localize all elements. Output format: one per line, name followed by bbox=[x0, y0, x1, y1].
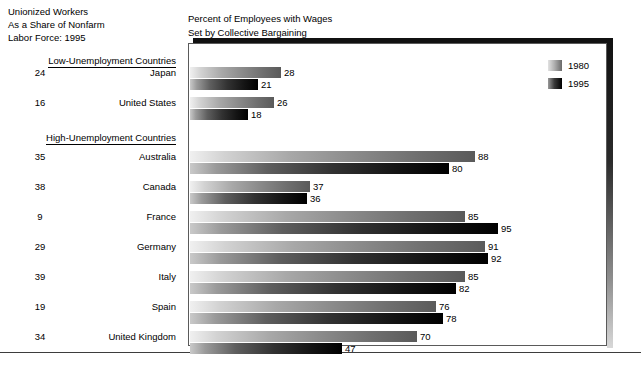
bar-value-label: 85 bbox=[468, 270, 479, 283]
bar-1995 bbox=[190, 163, 449, 174]
row-label: 34United Kingdom bbox=[0, 330, 182, 344]
bar-value-label: 82 bbox=[459, 282, 470, 295]
row-label: 35Australia bbox=[0, 150, 182, 164]
country-name: Spain bbox=[152, 300, 176, 314]
bar-1980 bbox=[190, 151, 475, 162]
legend-item-label: 1995 bbox=[568, 78, 589, 89]
group-heading-label: High-Unemployment Countries bbox=[46, 132, 176, 145]
union-share-value: 29 bbox=[22, 240, 58, 254]
union-share-value: 38 bbox=[22, 180, 58, 194]
row-label: 39Italy bbox=[0, 270, 182, 284]
row-label: 38Canada bbox=[0, 180, 182, 194]
country-name: Australia bbox=[139, 150, 176, 164]
bar-1995 bbox=[190, 253, 488, 264]
bar-1980 bbox=[190, 67, 281, 78]
bar-value-label: 28 bbox=[284, 66, 295, 79]
bar-value-label: 85 bbox=[468, 210, 479, 223]
bar-1980 bbox=[190, 301, 436, 312]
country-name: Canada bbox=[143, 180, 176, 194]
country-name: Italy bbox=[159, 270, 176, 284]
country-name: United Kingdom bbox=[108, 330, 176, 344]
bar-value-label: 95 bbox=[501, 222, 512, 235]
union-share-value: 39 bbox=[22, 270, 58, 284]
bar-1980 bbox=[190, 97, 274, 108]
bar-value-label: 78 bbox=[446, 312, 457, 325]
row-label: 9France bbox=[0, 210, 182, 224]
chart-frame-shadow-right bbox=[607, 38, 613, 348]
bar-value-label: 21 bbox=[261, 78, 272, 91]
bar-value-label: 36 bbox=[310, 192, 321, 205]
row-label: 19Spain bbox=[0, 300, 182, 314]
bar-1995 bbox=[190, 283, 456, 294]
bar-1995 bbox=[190, 343, 342, 354]
bar-value-label: 92 bbox=[491, 252, 502, 265]
bar-1995 bbox=[190, 223, 498, 234]
left-title: Unionized Workers As a Share of Nonfarm … bbox=[8, 5, 105, 44]
bar-value-label: 47 bbox=[345, 342, 356, 355]
row-label: 29Germany bbox=[0, 240, 182, 254]
country-name: Germany bbox=[137, 240, 176, 254]
union-share-value: 9 bbox=[22, 210, 58, 224]
bar-1980 bbox=[190, 271, 465, 282]
row-label: 24Japan bbox=[0, 66, 182, 80]
gray-gradient-dark-swatch bbox=[548, 78, 562, 89]
union-share-value: 16 bbox=[22, 96, 58, 110]
union-share-value: 35 bbox=[22, 150, 58, 164]
bar-value-label: 70 bbox=[420, 330, 431, 343]
bar-1995 bbox=[190, 313, 443, 324]
group-heading: High-Unemployment Countries bbox=[0, 131, 182, 145]
legend-item-label: 1980 bbox=[568, 60, 589, 71]
union-share-value: 19 bbox=[22, 300, 58, 314]
bar-value-label: 80 bbox=[452, 162, 463, 175]
bar-1980 bbox=[190, 211, 465, 222]
bar-value-label: 88 bbox=[478, 150, 489, 163]
row-label: 16United States bbox=[0, 96, 182, 110]
country-name: France bbox=[146, 210, 176, 224]
bar-value-label: 18 bbox=[251, 108, 262, 121]
bar-1980 bbox=[190, 241, 485, 252]
country-name: Japan bbox=[150, 66, 176, 80]
gray-gradient-light-swatch bbox=[548, 60, 562, 71]
bar-1980 bbox=[190, 181, 310, 192]
union-share-value: 34 bbox=[22, 330, 58, 344]
bar-1995 bbox=[190, 193, 307, 204]
country-name: United States bbox=[119, 96, 176, 110]
union-share-value: 24 bbox=[22, 66, 58, 80]
legend-item-1995[interactable]: 1995 bbox=[548, 78, 589, 90]
bar-1995 bbox=[190, 109, 248, 120]
bar-1980 bbox=[190, 331, 417, 342]
bar-value-label: 26 bbox=[277, 96, 288, 109]
chart-title: Percent of Employees with Wages Set by C… bbox=[188, 12, 332, 39]
bar-1995 bbox=[190, 79, 258, 90]
legend-item-1980[interactable]: 1980 bbox=[548, 60, 589, 72]
